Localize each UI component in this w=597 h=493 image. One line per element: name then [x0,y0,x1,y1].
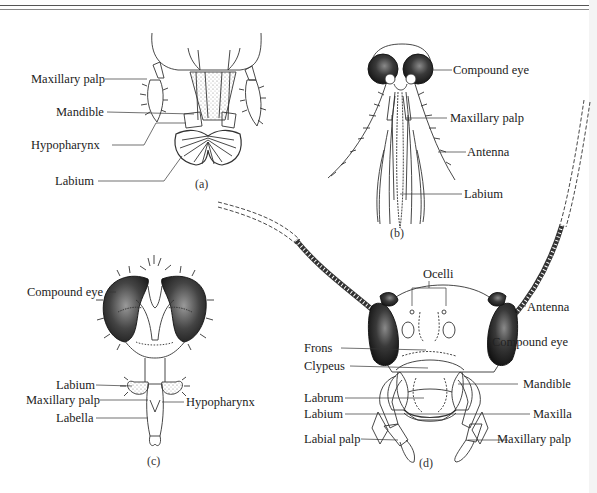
panel-d-label-frons: Frons [304,341,332,355]
panel-d-label-labial-palp: Labial palp [304,432,361,446]
panel-b-label-antenna: Antenna [467,145,509,159]
panel-b-caption: (b) [390,226,404,240]
panel-d-label-compound-eye: Compound eye [492,335,568,349]
panel-b-label-compound-eye: Compound eye [453,63,529,77]
panel-a-caption: (a) [195,177,208,191]
panel-d-caption: (d) [419,456,433,470]
panel-a-label-maxillary-palp: Maxillary palp [31,72,105,86]
panel-a-label-mandible: Mandible [56,105,104,119]
panel-c-caption: (c) [147,454,160,468]
panel-a-label-labium: Labium [55,174,94,188]
panel-d-label-antenna: Antenna [527,300,569,314]
panel-a-leaders [98,79,194,181]
panel-c-drawing [96,255,214,446]
panel-c-label-labium: Labium [56,378,95,392]
panel-b-label-labium: Labium [464,187,503,201]
panel-b-label-maxillary-palp: Maxillary palp [450,111,524,125]
panel-d-label-ocelli: Ocelli [423,267,454,281]
panel-d-label-labium: Labium [304,407,343,421]
panel-c-label-maxillary-palp: Maxillary palp [26,393,100,407]
panel-c-label-hypopharynx: Hypopharynx [186,395,255,409]
panel-a-drawing [140,33,266,165]
panel-a-label-hypopharynx: Hypopharynx [31,138,100,152]
panel-d-label-maxillary-palp: Maxillary palp [497,432,571,446]
panel-d-label-mandible: Mandible [523,377,571,391]
panel-d-label-clypeus: Clypeus [304,359,345,373]
panel-c-label-compound-eye: Compound eye [27,285,103,299]
panel-c-label-labella: Labella [56,411,93,425]
panel-d-label-labrum: Labrum [304,391,344,405]
panel-d-label-maxilla: Maxilla [533,407,572,421]
panel-b-drawing [328,44,455,228]
